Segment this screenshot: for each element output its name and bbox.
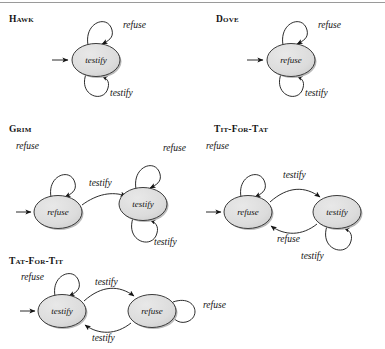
fsm-diagram-page: Hawk Dove Grim Tit-For-Tat Tat-For-Tit bbox=[0, 0, 385, 349]
state-label-tfti-s0: testify bbox=[51, 306, 73, 316]
edge-label-tfti-s0-loop: refuse bbox=[21, 272, 44, 282]
diagram-hawk: testify bbox=[52, 22, 122, 97]
edge-label-tft-s1-loop: testify bbox=[301, 251, 324, 261]
transition-tft-s0-to-s1 bbox=[270, 189, 320, 202]
state-label-grim-s0: refuse bbox=[47, 207, 69, 217]
transition-tfti-s0-to-s1 bbox=[84, 288, 134, 301]
state-label-grim-s1: testify bbox=[132, 199, 154, 209]
transition-tft-s1-to-s0 bbox=[271, 224, 317, 233]
self-loop-top-tfti-s0 bbox=[55, 274, 80, 296]
self-loop-top-tft-s0 bbox=[241, 175, 266, 197]
edge-label-tfti-transition-upper: testify bbox=[95, 277, 118, 287]
state-label-hawk-s0: testify bbox=[85, 55, 107, 65]
self-loop-top-grim-s0 bbox=[51, 175, 76, 197]
state-label-tft-s1: testify bbox=[326, 207, 348, 217]
edge-label-dove-loop-bottom: testify bbox=[305, 88, 328, 98]
state-label-dove-s0: refuse bbox=[280, 55, 302, 65]
edge-label-tfti-transition-lower: testify bbox=[92, 333, 115, 343]
edge-label-dove-loop-top: refuse bbox=[318, 20, 341, 30]
transition-tfti-s1-to-s0 bbox=[85, 323, 131, 332]
fsm-vector-canvas: testify refuse bbox=[0, 0, 385, 349]
edge-label-tft-transition-lower: refuse bbox=[277, 234, 300, 244]
self-loop-top-hawk bbox=[88, 22, 113, 45]
edge-label-grim-s1-loop-top: refuse bbox=[163, 143, 186, 153]
edge-label-grim-s1-loop-bottom: testify bbox=[154, 237, 177, 247]
edge-label-grim-transition: testify bbox=[89, 178, 112, 188]
edge-label-tft-transition-upper: testify bbox=[283, 170, 306, 180]
diagram-dove: refuse bbox=[247, 22, 317, 97]
self-loop-top-grim-s1 bbox=[136, 166, 161, 189]
edge-label-tfti-s1-loop: refuse bbox=[203, 300, 226, 310]
edge-label-hawk-loop-bottom: testify bbox=[110, 88, 133, 98]
self-loop-top-dove bbox=[283, 22, 308, 45]
state-label-tft-s0: refuse bbox=[237, 207, 259, 217]
edge-label-grim-s0-loop: refuse bbox=[16, 141, 39, 151]
edge-label-tft-s0-loop: refuse bbox=[206, 141, 229, 151]
edge-label-hawk-loop-top: refuse bbox=[123, 20, 146, 30]
state-label-tfti-s1: refuse bbox=[141, 306, 163, 316]
